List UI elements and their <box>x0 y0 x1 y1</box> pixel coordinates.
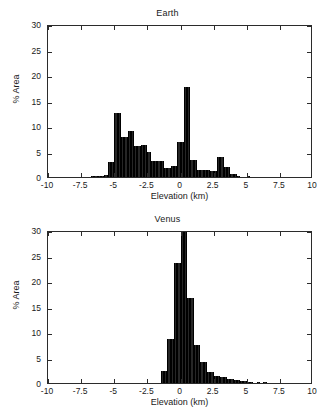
y-tick-label: 0 <box>36 173 41 183</box>
y-axis-tick <box>48 26 52 27</box>
x-axis-tick <box>280 26 281 30</box>
x-tick-label: 7.5 <box>273 180 285 190</box>
x-axis-tick <box>214 379 215 383</box>
y-axis-tick <box>307 232 311 233</box>
plot-area-earth <box>47 25 312 178</box>
x-axis-tick <box>114 173 115 177</box>
x-axis-tick <box>280 232 281 236</box>
figure-root: Earth -10-7.5-5-2.502.557.510 0510152025… <box>0 0 335 411</box>
x-tick-label: 7.5 <box>273 386 285 396</box>
x-axis-tick <box>147 173 148 177</box>
x-tick-label: 0 <box>177 386 182 396</box>
y-tick-label: 10 <box>32 328 41 338</box>
x-tick-label: -5 <box>109 180 117 190</box>
plot-area-venus <box>47 231 312 384</box>
x-axis-tick <box>181 173 182 177</box>
y-tick-label: 0 <box>36 379 41 389</box>
x-axis-tick <box>280 173 281 177</box>
y-axis-tick <box>307 258 311 259</box>
x-tick-label: 5 <box>243 386 248 396</box>
y-tick-label: 15 <box>32 97 41 107</box>
chart-title-venus: Venus <box>0 214 335 224</box>
y-axis-tick <box>48 77 52 78</box>
histogram-bar <box>296 383 299 384</box>
y-axis-tick <box>307 128 311 129</box>
histogram-bar <box>263 382 266 383</box>
histogram-bar <box>293 177 296 178</box>
y-tick-label: 5 <box>36 354 41 364</box>
x-tick-label: -2.5 <box>139 180 154 190</box>
y-axis-tick <box>48 128 52 129</box>
y-tick-label: 25 <box>32 252 41 262</box>
x-axis-tick <box>81 173 82 177</box>
x-axis-tick <box>181 26 182 30</box>
x-tick-label: 10 <box>307 180 316 190</box>
histogram-bar <box>270 383 273 384</box>
y-tick-label: 20 <box>32 71 41 81</box>
chart-panel-earth: Earth -10-7.5-5-2.502.557.510 0510152025… <box>0 0 335 205</box>
x-axis-tick <box>81 232 82 236</box>
x-axis-label-earth: Elevation (km) <box>47 191 312 201</box>
x-axis-tick <box>181 232 182 236</box>
y-axis-tick <box>48 334 52 335</box>
x-axis-tick <box>247 26 248 30</box>
chart-title-earth: Earth <box>0 8 335 18</box>
histogram-bar <box>287 177 290 178</box>
y-axis-tick <box>48 154 52 155</box>
y-axis-tick <box>48 103 52 104</box>
y-axis-tick <box>48 258 52 259</box>
chart-panel-venus: Venus -10-7.5-5-2.502.557.510 0510152025… <box>0 206 335 411</box>
y-axis-tick <box>307 154 311 155</box>
histogram-bar <box>250 382 253 383</box>
y-axis-tick <box>48 283 52 284</box>
histogram-bar <box>257 382 260 383</box>
y-tick-label: 10 <box>32 122 41 132</box>
histogram-bar <box>283 383 286 384</box>
y-axis-tick <box>48 52 52 53</box>
y-axis-tick <box>307 283 311 284</box>
y-axis-tick <box>307 309 311 310</box>
x-tick-label: 2.5 <box>207 386 219 396</box>
y-axis-tick <box>307 334 311 335</box>
x-axis-tick <box>48 379 49 383</box>
histogram-bar <box>290 383 293 384</box>
y-tick-label: 25 <box>32 46 41 56</box>
x-axis-tick <box>48 173 49 177</box>
x-axis-tick <box>114 232 115 236</box>
x-axis-tick <box>114 379 115 383</box>
y-tick-label: 30 <box>32 20 41 30</box>
bars-layer-venus <box>48 232 311 383</box>
bars-layer-earth <box>48 26 311 177</box>
x-tick-label: 10 <box>307 386 316 396</box>
y-axis-label-venus: % Area <box>11 265 21 325</box>
y-axis-tick <box>307 360 311 361</box>
x-axis-tick <box>247 379 248 383</box>
x-axis-tick <box>114 26 115 30</box>
y-axis-tick <box>307 26 311 27</box>
x-axis-tick <box>147 26 148 30</box>
x-axis-tick <box>214 232 215 236</box>
x-axis-tick <box>247 232 248 236</box>
y-tick-label: 30 <box>32 226 41 236</box>
y-axis-tick <box>307 77 311 78</box>
y-axis-tick <box>48 232 52 233</box>
x-axis-tick <box>247 173 248 177</box>
x-axis-tick <box>147 232 148 236</box>
histogram-bar <box>263 177 266 178</box>
y-axis-tick <box>307 52 311 53</box>
x-axis-tick <box>280 379 281 383</box>
x-tick-label: -7.5 <box>73 386 88 396</box>
x-axis-tick <box>147 379 148 383</box>
x-axis-tick <box>81 26 82 30</box>
x-tick-label: 2.5 <box>207 180 219 190</box>
y-axis-tick <box>48 309 52 310</box>
x-tick-label: 0 <box>177 180 182 190</box>
histogram-bar <box>253 177 256 178</box>
x-axis-tick <box>214 173 215 177</box>
x-tick-label: -5 <box>109 386 117 396</box>
x-tick-label: -10 <box>41 386 53 396</box>
y-tick-label: 5 <box>36 148 41 158</box>
x-tick-label: -2.5 <box>139 386 154 396</box>
x-tick-label: 5 <box>243 180 248 190</box>
x-axis-label-venus: Elevation (km) <box>47 397 312 407</box>
